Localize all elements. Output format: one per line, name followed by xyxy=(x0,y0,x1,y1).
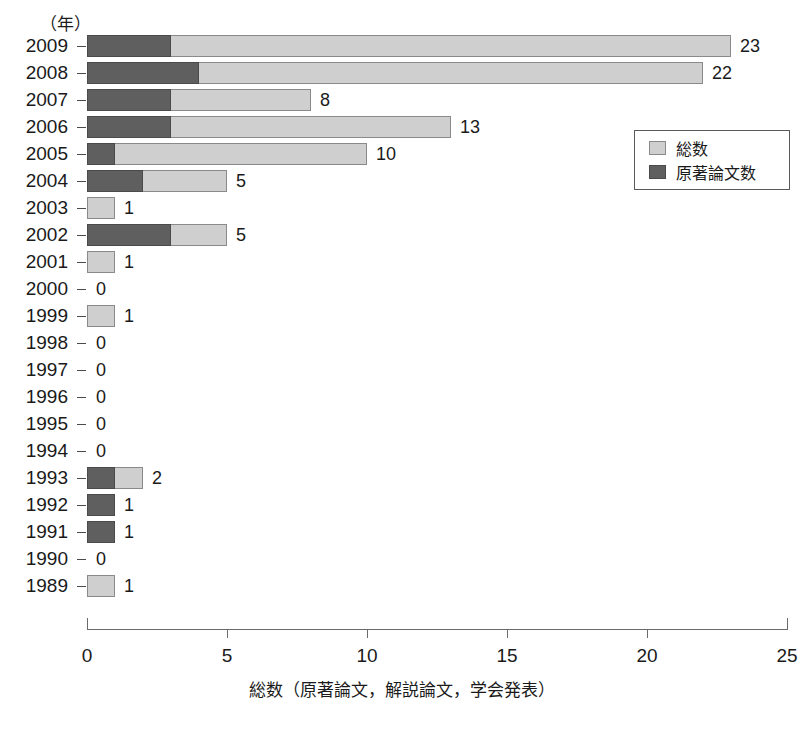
y-axis-tick-mark xyxy=(77,370,86,371)
y-axis-tick-label: 2004 xyxy=(0,171,68,190)
bar-segment-total xyxy=(87,575,115,597)
bar-segment-total xyxy=(87,197,115,219)
x-axis-tick-mark xyxy=(507,629,508,638)
x-axis-tick-mark xyxy=(787,618,788,630)
y-axis-tick-label: 1992 xyxy=(0,495,68,514)
y-axis-tick-label: 1990 xyxy=(0,549,68,568)
y-axis-tick-label: 2000 xyxy=(0,279,68,298)
x-axis-tick-label: 20 xyxy=(622,645,672,667)
bar-row xyxy=(87,116,451,138)
x-axis-tick-mark xyxy=(367,629,368,638)
legend-item-total: 総数 xyxy=(649,138,708,158)
bar-row xyxy=(87,62,703,84)
bar-segment-original-papers xyxy=(87,494,115,516)
bar-value-label: 0 xyxy=(96,359,106,381)
y-axis-tick-label: 2001 xyxy=(0,252,68,271)
y-axis-tick-label: 1995 xyxy=(0,414,68,433)
y-axis-tick-mark xyxy=(77,208,86,209)
bar-value-label: 22 xyxy=(712,62,732,84)
bar-segment-total xyxy=(87,305,115,327)
y-axis-tick-label: 1989 xyxy=(0,576,68,595)
bar-row xyxy=(87,467,143,489)
bar-row xyxy=(87,35,731,57)
x-axis-line xyxy=(87,629,787,630)
x-axis-title: 総数（原著論文，解説論文，学会発表） xyxy=(0,676,803,701)
bar-value-label: 0 xyxy=(96,548,106,570)
x-axis-tick-label: 15 xyxy=(482,645,532,667)
y-axis-tick-mark xyxy=(77,478,86,479)
y-axis-tick-label: 2009 xyxy=(0,36,68,55)
x-axis-tick-label: 10 xyxy=(342,645,392,667)
bar-row xyxy=(87,251,115,273)
y-axis-tick-mark xyxy=(77,532,86,533)
bar-row xyxy=(87,494,115,516)
x-axis-tick-mark xyxy=(647,629,648,638)
y-axis-tick-label: 1993 xyxy=(0,468,68,487)
bar-segment-original-papers xyxy=(87,467,115,489)
y-axis-tick-mark xyxy=(77,100,86,101)
bar-row xyxy=(87,224,227,246)
bar-segment-original-papers xyxy=(87,143,115,165)
bar-value-label: 5 xyxy=(236,170,246,192)
bar-value-label: 1 xyxy=(124,305,134,327)
x-axis-tick-label: 0 xyxy=(62,645,112,667)
bar-row xyxy=(87,89,311,111)
y-axis-tick-label: 2007 xyxy=(0,90,68,109)
bar-segment-total xyxy=(87,143,367,165)
bar-value-label: 1 xyxy=(124,521,134,543)
dark-gray-swatch xyxy=(649,165,666,179)
y-axis-tick-label: 1996 xyxy=(0,387,68,406)
legend-label-original-papers: 原著論文数 xyxy=(676,160,756,184)
x-axis-tick-label: 25 xyxy=(762,645,803,667)
y-axis-tick-mark xyxy=(77,235,86,236)
y-axis-tick-mark xyxy=(77,262,86,263)
bar-value-label: 5 xyxy=(236,224,246,246)
bar-segment-original-papers xyxy=(87,89,171,111)
bar-segment-original-papers xyxy=(87,170,143,192)
bar-value-label: 0 xyxy=(96,278,106,300)
bar-row xyxy=(87,197,115,219)
y-axis-tick-label: 1997 xyxy=(0,360,68,379)
chart-legend: 総数 原著論文数 xyxy=(634,130,790,190)
y-axis-tick-label: 2005 xyxy=(0,144,68,163)
y-axis-tick-label: 1994 xyxy=(0,441,68,460)
bar-value-label: 1 xyxy=(124,575,134,597)
y-axis-tick-mark xyxy=(77,559,86,560)
bar-segment-original-papers xyxy=(87,35,171,57)
y-axis-tick-label: 2008 xyxy=(0,63,68,82)
bar-value-label: 1 xyxy=(124,197,134,219)
plot-area: 2009232008222007820061320051020045200312… xyxy=(0,0,803,736)
y-axis-tick-mark xyxy=(77,73,86,74)
bar-row xyxy=(87,575,115,597)
light-gray-swatch xyxy=(649,141,666,155)
y-axis-tick-label: 1999 xyxy=(0,306,68,325)
y-axis-tick-label: 2003 xyxy=(0,198,68,217)
bar-value-label: 1 xyxy=(124,251,134,273)
y-axis-tick-mark xyxy=(77,181,86,182)
y-axis-tick-mark xyxy=(77,397,86,398)
legend-item-original-papers: 原著論文数 xyxy=(649,162,756,182)
y-axis-tick-mark xyxy=(77,127,86,128)
bar-value-label: 10 xyxy=(376,143,396,165)
bar-segment-total xyxy=(87,251,115,273)
y-axis-tick-mark xyxy=(77,289,86,290)
bar-value-label: 0 xyxy=(96,440,106,462)
y-axis-tick-mark xyxy=(77,316,86,317)
y-axis-tick-label: 1991 xyxy=(0,522,68,541)
bar-value-label: 8 xyxy=(320,89,330,111)
y-axis-tick-mark xyxy=(77,424,86,425)
y-axis-tick-mark xyxy=(77,46,86,47)
bar-segment-original-papers xyxy=(87,116,171,138)
bar-row xyxy=(87,305,115,327)
y-axis-tick-mark xyxy=(77,451,86,452)
bar-value-label: 0 xyxy=(96,413,106,435)
x-axis-tick-mark xyxy=(227,629,228,638)
bar-value-label: 23 xyxy=(740,35,760,57)
bar-segment-original-papers xyxy=(87,521,115,543)
y-axis-tick-mark xyxy=(77,505,86,506)
bar-segment-total xyxy=(87,35,731,57)
bar-chart: （年） 200923200822200782006132005102004520… xyxy=(0,0,803,736)
x-axis-tick-mark xyxy=(87,618,88,630)
y-axis-tick-mark xyxy=(77,343,86,344)
y-axis-tick-mark xyxy=(77,154,86,155)
